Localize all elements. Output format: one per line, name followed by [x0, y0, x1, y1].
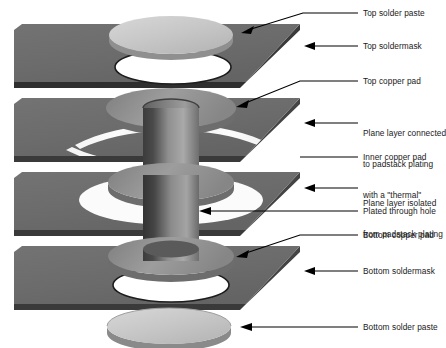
label-inner-copper-pad: Inner copper pad: [363, 152, 427, 162]
bottom-pad-hole: [143, 241, 199, 258]
barrel-through-antipad: [143, 189, 199, 245]
bottom-soldermask-bottom-edge: [14, 304, 246, 310]
label-bottom-solder-paste: Bottom solder paste: [363, 322, 438, 332]
bottom-copper-pad-annulus: [108, 237, 234, 282]
inner-pad-barrel-pass: [143, 175, 199, 189]
label-plated-through-hole: Plated through hole: [363, 206, 436, 216]
top-solder-paste-top: [109, 16, 233, 54]
barrel-upper: [143, 108, 199, 170]
label-plane-layer-isolated: Plane layer isolated from padstack plati…: [363, 178, 443, 260]
label-plane-thermal-line-1: Plane layer connected: [363, 128, 446, 138]
label-bottom-copper-pad: Bottom copper pad: [363, 230, 434, 240]
label-top-solder-paste: Top solder paste: [363, 8, 425, 18]
label-top-copper-pad: Top copper pad: [363, 76, 421, 86]
top-soldermask-bottom-edge: [14, 82, 246, 88]
top-solder-paste-disc: [109, 16, 233, 60]
plane3-bottom-edge: [14, 230, 246, 236]
plane2-bottom-edge: [14, 156, 246, 162]
label-top-soldermask: Top soldermask: [363, 41, 422, 51]
bottom-solder-paste-disc: [107, 308, 231, 348]
label-bottom-soldermask: Bottom soldermask: [363, 266, 435, 276]
